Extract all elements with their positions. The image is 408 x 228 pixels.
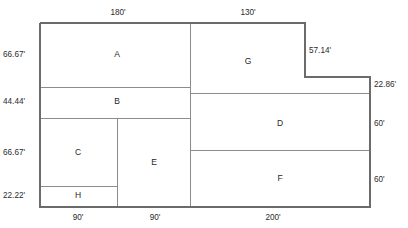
dimension-bottom-f: 200' [265,213,281,222]
dimension-right-step: 22.86' [374,80,396,89]
region-label-f: F [277,173,282,183]
region-label-e: E [151,157,157,167]
dimension-bottom-e: 90' [150,213,161,222]
dimension-right-f: 60' [374,175,385,184]
left-dimension-labels: 66.67' 44.44' 66.67' 22.22' [3,50,25,200]
region-label-c: C [75,147,81,157]
floor-plan-diagram: A B C D E F G H 180' 130' 66.67' 44.44' … [0,0,408,228]
dimension-left-b: 44.44' [3,97,25,106]
dimension-left-c: 66.67' [3,148,25,157]
top-dimension-labels: 180' 130' [110,8,256,17]
right-dimension-labels: 22.86' 60' 60' [374,80,396,184]
region-label-h: H [75,190,81,200]
region-label-a: A [114,49,120,59]
dimension-left-a: 66.67' [3,50,25,59]
dimension-left-h: 22.22' [3,191,25,200]
bottom-dimension-labels: 90' 90' 200' [73,213,281,222]
dimension-right-d: 60' [374,119,385,128]
dimension-top-130: 130' [240,8,256,17]
plan-canvas: A B C D E F G H 180' 130' 66.67' 44.44' … [0,0,408,228]
dimension-bottom-c: 90' [73,213,84,222]
dimension-inner-step: 57.14' [309,46,331,55]
inner-dimension-labels: 57.14' [309,46,331,55]
region-label-b: B [114,96,120,106]
region-label-d: D [277,118,283,128]
region-label-g: G [245,56,252,66]
dimension-top-180: 180' [110,8,126,17]
